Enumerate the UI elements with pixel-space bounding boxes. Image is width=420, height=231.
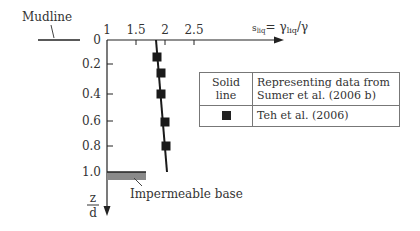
y-axis-label-d: d <box>89 206 97 220</box>
x-tick-label: 2.5 <box>184 23 203 37</box>
y-tick-label: 0.8 <box>82 139 101 153</box>
y-tick-label: 0.6 <box>82 114 101 128</box>
x-tick-label: 1 <box>103 23 111 37</box>
legend-text: Representing data from Sumer et al. (200… <box>253 73 400 106</box>
y-axis-label-z: z <box>90 191 96 205</box>
data-point-square <box>162 142 171 151</box>
x-tick-label: 2 <box>161 23 169 37</box>
legend-row-square: Teh et al. (2006) <box>200 106 400 127</box>
y-ticks <box>107 64 113 146</box>
x-axis-label: sliq= γliq/γ <box>252 20 308 35</box>
data-point-square <box>161 118 170 127</box>
x-ticks <box>136 40 194 45</box>
legend-symbol-label: Solid line <box>200 73 253 106</box>
y-axis-arrow-icon <box>104 206 111 216</box>
mudline-label: Mudline <box>22 10 72 24</box>
legend-row-solid-line: Solid line Representing data from Sumer … <box>200 73 400 106</box>
legend-text: Teh et al. (2006) <box>253 106 400 127</box>
x-tick-label: 1.5 <box>126 23 145 37</box>
y-tick-label: 0.2 <box>82 57 101 71</box>
legend-table: Solid line Representing data from Sumer … <box>199 72 400 127</box>
y-tick-label: 0.4 <box>82 87 101 101</box>
impermeable-label: Impermeable base <box>130 187 243 201</box>
impermeable-base-block <box>107 172 146 180</box>
y-tick-label: 1.0 <box>82 165 101 179</box>
data-point-square <box>157 90 166 99</box>
filled-square-icon <box>222 111 231 120</box>
x-axis-arrow-icon <box>274 37 284 44</box>
y-tick-label: 0 <box>93 33 101 47</box>
data-point-square <box>157 69 166 78</box>
data-point-square <box>153 53 162 62</box>
mudline-leader <box>51 25 54 38</box>
